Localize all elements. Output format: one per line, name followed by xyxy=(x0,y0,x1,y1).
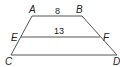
vertex-label-b: B xyxy=(76,4,83,15)
segment-bd xyxy=(82,16,117,55)
trapezoid-diagram: A B E F C D 8 13 xyxy=(0,0,120,67)
length-label-ef: 13 xyxy=(54,26,64,36)
vertex-label-f: F xyxy=(103,32,110,43)
length-label-ab: 8 xyxy=(55,6,60,16)
vertex-label-c: C xyxy=(5,56,13,67)
vertex-label-e: E xyxy=(11,32,18,43)
vertex-label-a: A xyxy=(28,4,36,15)
vertex-label-d: D xyxy=(113,56,120,67)
